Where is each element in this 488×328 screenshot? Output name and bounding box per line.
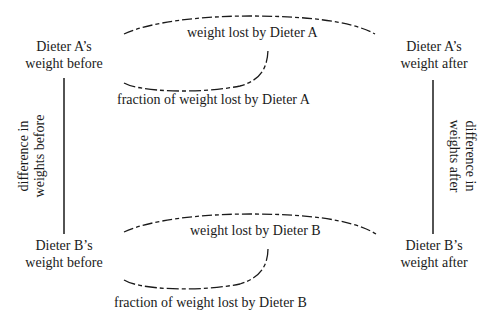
node-line1: Dieter A’s (388, 38, 480, 55)
label-difference-after: difference in weights after (446, 96, 478, 216)
node-line2: weight after (388, 55, 480, 72)
side-line1: difference in (462, 96, 478, 216)
arc-fraction-a (124, 48, 268, 91)
side-line1: difference in (16, 96, 32, 216)
label-weight-lost-a: weight lost by Dieter A (187, 24, 318, 41)
node-line2: weight after (388, 254, 480, 271)
arc-fraction-b (124, 248, 268, 289)
label-weight-lost-b: weight lost by Dieter B (190, 222, 321, 239)
label-fraction-lost-b: fraction of weight lost by Dieter B (114, 294, 307, 311)
label-difference-before: difference in weights before (16, 96, 48, 216)
node-dieter-b-before: Dieter B’s weight before (18, 237, 110, 271)
node-line2: weight before (18, 55, 110, 72)
node-line1: Dieter B’s (388, 237, 480, 254)
side-line2: weights after (446, 96, 462, 216)
node-dieter-a-before: Dieter A’s weight before (18, 38, 110, 72)
node-line1: Dieter B’s (18, 237, 110, 254)
node-dieter-a-after: Dieter A’s weight after (388, 38, 480, 72)
label-fraction-lost-a: fraction of weight lost by Dieter A (117, 91, 310, 108)
node-line2: weight before (18, 254, 110, 271)
node-dieter-b-after: Dieter B’s weight after (388, 237, 480, 271)
side-line2: weights before (32, 96, 48, 216)
node-line1: Dieter A’s (18, 38, 110, 55)
